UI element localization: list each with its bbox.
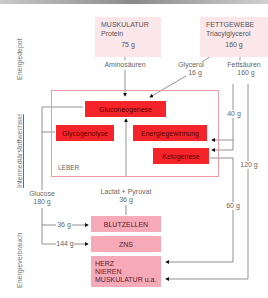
depot-fat-title: FETTGEWEBE xyxy=(206,20,262,29)
depot-muscle: MUSKULATUR Protein 75 g xyxy=(95,17,161,57)
label-to-blood: 36 g xyxy=(56,221,72,229)
label-amino: Aminosäuren xyxy=(100,61,150,69)
consumer-cns: ZNS xyxy=(91,236,161,252)
depot-muscle-title: MUSKULATUR xyxy=(101,20,155,29)
label-glycerol-amount: 16 g xyxy=(180,69,210,77)
consumer-organs-muscle: MUSKULATUR u.a. xyxy=(95,276,156,284)
label-fatty-acids-amount: 160 g xyxy=(228,69,264,77)
process-glycogenolysis: Glycogenolyse xyxy=(56,125,114,141)
process-ketogenesis: Ketogenese xyxy=(153,148,209,164)
label-keto-60: 60 g xyxy=(224,202,242,210)
process-energy-production: Energiegewinnung xyxy=(133,125,207,141)
depot-fat-substance: Triacylglycerol xyxy=(206,29,262,38)
consumer-blood-cells: BLUTZELLEN xyxy=(91,216,161,232)
depot-muscle-substance: Protein xyxy=(101,29,155,38)
label-fa-40: 40 g xyxy=(226,110,242,118)
consumer-organs-heart: HERZ xyxy=(95,260,114,268)
label-glycerol: Glycerol xyxy=(176,61,206,69)
depot-muscle-amount: 75 g xyxy=(101,40,155,49)
liver-label: LEBER xyxy=(58,164,79,172)
label-lactate-amount: 36 g xyxy=(112,196,140,204)
label-lactate: Lactat + Pyruvat xyxy=(98,188,154,196)
consumer-organs: HERZ NIEREN MUSKULATUR u.a. xyxy=(91,256,161,287)
consumer-organs-kidney: NIEREN xyxy=(95,268,121,276)
depot-fat: FETTGEWEBE Triacylglycerol 160 g xyxy=(200,17,268,57)
label-fa-120: 120 g xyxy=(238,161,260,169)
label-to-cns: 144 g xyxy=(56,240,74,248)
process-gluconeogenesis: Gluconeogenese xyxy=(85,101,166,117)
label-glucose: Glucose xyxy=(28,190,56,198)
label-glucose-amount: 180 g xyxy=(28,198,56,206)
label-fatty-acids: Fettsäuren xyxy=(224,61,264,69)
depot-fat-amount: 160 g xyxy=(206,40,262,49)
